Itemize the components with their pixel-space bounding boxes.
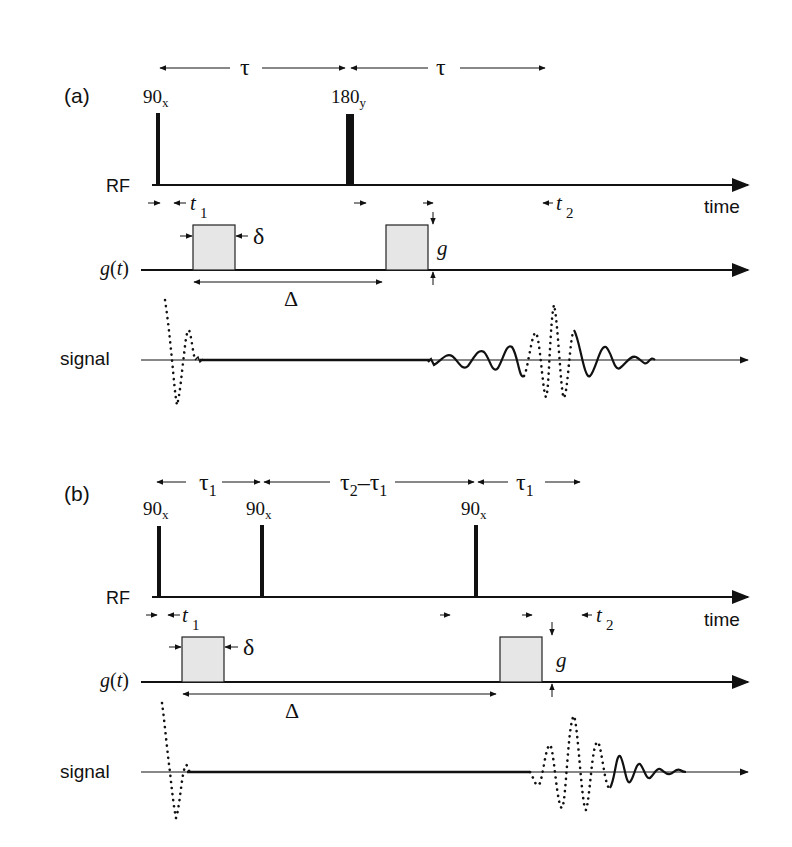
gradient-pulse-2 xyxy=(500,637,542,682)
svg-text:t: t xyxy=(556,191,563,215)
rf-pulse-90x xyxy=(156,113,160,185)
gradient-row-label: g(t) xyxy=(100,669,129,692)
g-amplitude-marker: g xyxy=(552,622,567,697)
time-axis-label: time xyxy=(704,609,740,630)
gradient-row-label: g(t) xyxy=(100,257,129,280)
tau1-label: τ1 xyxy=(516,469,534,499)
delta-big-marker: Δ xyxy=(183,694,496,723)
pulse-label-180y: 180y xyxy=(331,86,367,110)
svg-text:Δ: Δ xyxy=(285,698,299,723)
pulse-label-90x: 90x xyxy=(143,86,169,110)
pulse-label-90x: 90x xyxy=(461,498,487,522)
gradient-pulse-2 xyxy=(386,225,428,270)
tau-label: τ xyxy=(436,54,446,80)
svg-text:δ: δ xyxy=(243,634,254,660)
panel-a: (a) τ τ 90x 180y RF t 1 t xyxy=(60,54,748,405)
t1-marker: t 1 xyxy=(148,191,208,221)
svg-text:Δ: Δ xyxy=(284,286,298,311)
pulse-sequence-diagram: (a) τ τ 90x 180y RF t 1 t xyxy=(0,0,792,847)
t2-marker: t 2 xyxy=(354,191,574,221)
svg-text:g: g xyxy=(556,648,567,672)
svg-text:t: t xyxy=(596,603,603,627)
g-amplitude-marker: g xyxy=(433,212,448,285)
fid-signal xyxy=(162,703,191,818)
t2-marker: t 2 xyxy=(440,603,614,633)
svg-text:2: 2 xyxy=(566,205,574,221)
time-axis-label: time xyxy=(704,196,740,217)
tau-label: τ xyxy=(240,54,250,80)
pulse-label-90x: 90x xyxy=(143,498,169,522)
svg-text:g: g xyxy=(437,236,448,260)
svg-text:2: 2 xyxy=(606,617,614,633)
panel-b-label: (b) xyxy=(64,482,90,505)
t1-marker: t 1 xyxy=(146,603,200,633)
tau1-label: τ1 xyxy=(199,469,217,499)
panel-a-label: (a) xyxy=(64,84,90,107)
echo-signal-solid-right xyxy=(574,330,655,376)
svg-text:t: t xyxy=(182,603,189,627)
svg-text:1: 1 xyxy=(192,617,200,633)
panel-b-timing-arrows: τ1 τ2–τ1 τ1 xyxy=(157,469,580,499)
tau2-minus-tau1-label: τ2–τ1 xyxy=(340,469,387,499)
rf-row-label: RF xyxy=(106,176,130,196)
signal-row-label: signal xyxy=(60,348,110,369)
pulse-label-90x: 90x xyxy=(246,498,272,522)
gradient-pulse-1 xyxy=(182,637,224,682)
panel-a-timing-arrows: τ τ xyxy=(160,54,545,80)
svg-text:δ: δ xyxy=(253,223,264,249)
rf-pulse-90x-1 xyxy=(157,526,161,597)
echo-signal-dotted xyxy=(530,716,610,810)
rf-row-label: RF xyxy=(106,588,130,608)
signal-row-label: signal xyxy=(60,761,110,782)
svg-text:t: t xyxy=(190,191,197,215)
rf-pulse-90x-3 xyxy=(474,525,478,597)
fid-signal xyxy=(165,300,195,405)
panel-b: (b) τ1 τ2–τ1 τ1 90x 90x 90x RF t 1 xyxy=(60,469,748,818)
rf-pulse-180y xyxy=(346,114,354,185)
gradient-pulse-1 xyxy=(193,225,235,270)
echo-signal-dotted xyxy=(524,305,574,398)
rf-pulse-90x-2 xyxy=(260,525,264,597)
svg-text:1: 1 xyxy=(200,205,208,221)
echo-signal-solid-left xyxy=(428,346,524,376)
delta-big-marker: Δ xyxy=(194,282,382,311)
